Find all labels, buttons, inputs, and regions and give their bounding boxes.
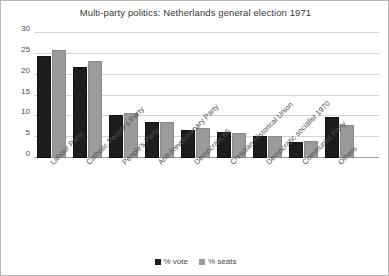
legend-item[interactable]: % vote: [155, 258, 188, 266]
y-axis-tick-labels: 051015202530: [1, 33, 30, 158]
bar[interactable]: [52, 50, 66, 158]
chart-screenshot: Multi-party politics: Netherlands genera…: [0, 0, 389, 276]
legend-swatch-icon: [155, 259, 161, 265]
bar-group: [37, 33, 66, 158]
y-tick-label-0: 0: [1, 150, 30, 158]
legend-swatch-icon: [199, 259, 205, 265]
y-tick-label-25: 25: [1, 46, 30, 54]
chart-title: Multi-party politics: Netherlands genera…: [1, 7, 389, 18]
y-tick-label-5: 5: [1, 129, 30, 137]
chart-legend: % vote% seats: [1, 258, 389, 266]
y-tick-label-15: 15: [1, 88, 30, 96]
y-tick-label-30: 30: [1, 25, 30, 33]
legend-label: % seats: [208, 258, 236, 266]
y-tick-label-10: 10: [1, 108, 30, 116]
legend-label: % vote: [164, 258, 188, 266]
legend-item[interactable]: % seats: [199, 258, 236, 266]
y-tick-label-20: 20: [1, 67, 30, 75]
bar[interactable]: [37, 56, 51, 159]
